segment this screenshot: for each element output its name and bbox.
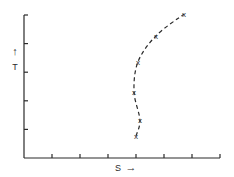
x-marker-icon: x: [138, 116, 142, 125]
data-markers: xxxxxx: [132, 10, 186, 141]
x-marker-icon: x: [154, 32, 158, 41]
axes: [24, 15, 220, 158]
x-marker-icon: x: [134, 132, 138, 141]
up-arrow-icon: ↑: [10, 46, 20, 57]
right-arrow-icon: →: [126, 161, 137, 173]
x-marker-icon: x: [136, 58, 140, 67]
chart-canvas: xxxxxx: [0, 0, 234, 177]
x-axis-label: S →: [115, 162, 137, 173]
x-marker-icon: x: [132, 88, 136, 97]
y-axis-label: ↑ T: [10, 46, 20, 72]
x-marker-icon: x: [182, 10, 186, 19]
